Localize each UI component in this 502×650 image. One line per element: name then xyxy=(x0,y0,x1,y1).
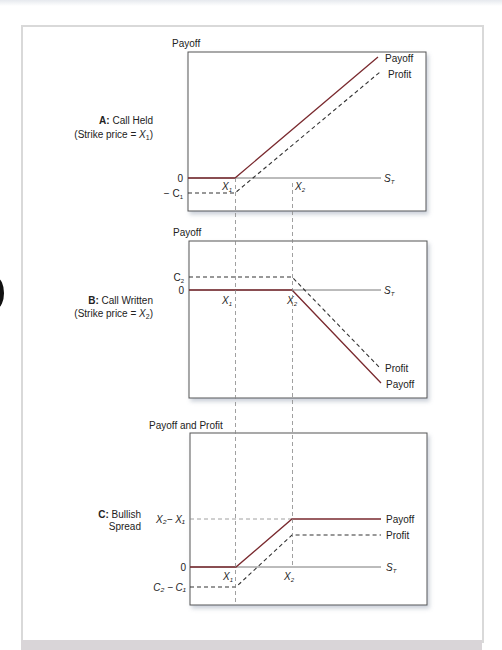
panel-a-tick-neg-c1: − C1 xyxy=(164,188,184,200)
panel-a: Payoff A: Call Held (Strike price = X1) … xyxy=(74,38,426,211)
panel-c: Payoff and Profit C: Bullish Spread ST X… xyxy=(98,420,427,605)
panel-b-tick-zero: 0 xyxy=(178,285,184,296)
payoff-diagram: Payoff A: Call Held (Strike price = X1) … xyxy=(0,0,502,650)
panel-b-tick-c2: C2 xyxy=(173,272,184,284)
panel-a-payoff-label: Payoff xyxy=(385,53,413,64)
panel-b-subtitle: (Strike price = X2) xyxy=(74,308,153,320)
panel-c-tick-zero: 0 xyxy=(180,562,186,573)
panel-b-profit-label: Profit xyxy=(385,363,409,374)
panel-a-profit-label: Profit xyxy=(388,69,412,80)
panel-c-title-line2: Spread xyxy=(109,521,141,532)
panel-c-y-axis-label: Payoff and Profit xyxy=(149,420,223,431)
panel-c-title: C: Bullish xyxy=(98,509,141,520)
panel-b-title: B: Call Written xyxy=(88,295,153,306)
panel-a-subtitle: (Strike price = X1) xyxy=(74,129,153,141)
panel-b-box xyxy=(189,241,427,398)
panel-b: Payoff B: Call Written (Strike price = X… xyxy=(74,227,427,398)
panel-a-tick-zero: 0 xyxy=(177,173,183,184)
panel-b-payoff-label: Payoff xyxy=(386,379,414,390)
panel-c-profit-label: Profit xyxy=(386,530,410,541)
panel-a-y-axis-label: Payoff xyxy=(172,38,200,49)
panel-c-tick-x2-minus-x1: X₂− X₁ xyxy=(155,514,185,525)
panel-b-y-axis-label: Payoff xyxy=(173,227,201,238)
panel-c-tick-c2-minus-c1: C₂ − C₁ xyxy=(153,582,186,593)
panel-c-payoff-label: Payoff xyxy=(386,514,414,525)
panel-a-title: A: Call Held xyxy=(99,115,153,126)
